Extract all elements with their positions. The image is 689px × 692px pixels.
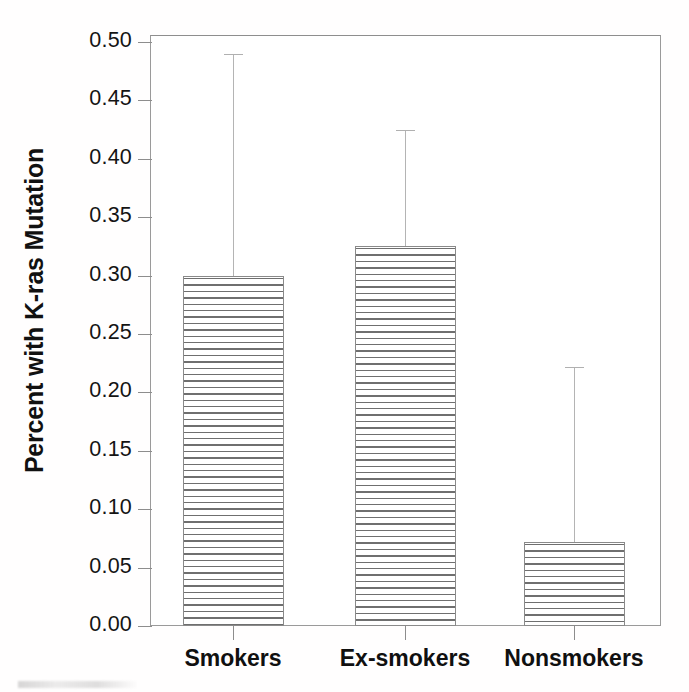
y-axis-tick-label: 0.20 (52, 378, 132, 403)
y-axis-tick (138, 334, 152, 335)
y-axis-tick (138, 626, 152, 627)
y-axis-tick (138, 451, 152, 452)
y-axis-tick-label: 0.35 (52, 203, 132, 228)
y-axis-tick-labels: 0.000.050.100.150.200.250.300.350.400.45… (42, 0, 132, 692)
x-axis-tick (574, 626, 575, 640)
y-axis-tick-label: 0.10 (52, 495, 132, 520)
y-axis-tick-label: 0.15 (52, 437, 132, 462)
bar (524, 542, 625, 626)
bar (183, 276, 284, 626)
bar (355, 246, 456, 626)
y-axis-tick (138, 42, 152, 43)
error-bar-cap (565, 367, 584, 368)
y-axis-tick-label: 0.05 (52, 554, 132, 579)
chart-figure: Percent with K-ras Mutation 0.000.050.10… (0, 0, 689, 692)
y-axis-tick (138, 276, 152, 277)
error-bar-cap (396, 130, 415, 131)
y-axis-tick (138, 100, 152, 101)
x-axis-tick (405, 626, 406, 640)
error-bar-cap (224, 54, 243, 55)
y-axis-tick (138, 217, 152, 218)
x-axis-tick-label: Nonsmokers (464, 645, 684, 672)
y-axis-tick-label: 0.30 (52, 262, 132, 287)
y-axis-tick-label: 0.00 (52, 612, 132, 637)
error-bar-stem (405, 130, 406, 247)
y-axis-tick (138, 392, 152, 393)
y-axis-tick-label: 0.25 (52, 320, 132, 345)
error-bar-stem (574, 367, 575, 542)
y-axis-tick (138, 159, 152, 160)
y-axis-tick-label: 0.50 (52, 28, 132, 53)
y-axis-tick (138, 509, 152, 510)
x-axis-tick (233, 626, 234, 640)
y-axis-tick-label: 0.40 (52, 145, 132, 170)
scan-artifact (18, 681, 136, 688)
error-bar-stem (233, 54, 234, 276)
y-axis-tick (138, 568, 152, 569)
y-axis-tick-label: 0.45 (52, 86, 132, 111)
